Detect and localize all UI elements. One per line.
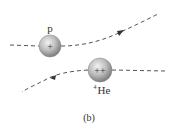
proton-label: p [47,22,53,34]
figure-caption: (b) [83,112,95,124]
proton-charge: + [47,41,53,52]
helium-particle: ++ 4 He [88,58,112,96]
arrow-right-icon [117,30,124,36]
helium-charge: ++ [94,65,106,76]
proton-trajectory [10,14,158,46]
helium-label: He [98,84,111,96]
proton-particle: + p [39,22,61,57]
helium-mass-number: 4 [94,84,97,90]
scattering-diagram: + p ++ 4 He (b) [0,0,178,131]
